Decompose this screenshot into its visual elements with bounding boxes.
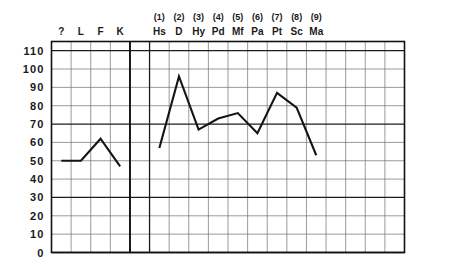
y-axis-tick-label: 80 xyxy=(30,100,44,112)
y-axis-tick-label: 100 xyxy=(23,63,45,75)
scale-number-label: (4) xyxy=(213,12,224,22)
y-axis-tick-label: 110 xyxy=(23,45,44,57)
scale-number-label: (6) xyxy=(252,12,263,22)
scale-abbreviation-labels: ?LFKHsDHyPdMfPaPtScMa xyxy=(58,26,323,37)
mmpi-profile-chart: 0102030405060708090100110 (1)(2)(3)(4)(5… xyxy=(0,0,460,275)
scale-number-label: (3) xyxy=(193,12,204,22)
scale-number-labels: (1)(2)(3)(4)(5)(6)(7)(8)(9) xyxy=(154,12,322,22)
scale-number-label: (8) xyxy=(291,12,302,22)
y-axis-tick-label: 90 xyxy=(30,81,44,93)
scale-number-label: (1) xyxy=(154,12,165,22)
scale-number-label: (2) xyxy=(173,12,184,22)
scale-abbreviation-label: F xyxy=(97,26,103,37)
y-axis-tick-labels: 0102030405060708090100110 xyxy=(23,45,45,259)
y-axis-tick-label: 10 xyxy=(30,228,44,240)
scale-abbreviation-label: Hy xyxy=(192,26,205,37)
scale-abbreviation-label: Sc xyxy=(291,26,304,37)
chart-canvas: 0102030405060708090100110 (1)(2)(3)(4)(5… xyxy=(0,0,460,275)
scale-number-label: (5) xyxy=(232,12,243,22)
y-axis-tick-label: 20 xyxy=(30,210,44,222)
clinical-scales-profile-line xyxy=(159,76,316,155)
scale-abbreviation-label: D xyxy=(175,26,182,37)
y-axis-tick-label: 60 xyxy=(30,136,44,148)
scale-abbreviation-label: K xyxy=(117,26,125,37)
scale-abbreviation-label: Hs xyxy=(153,26,166,37)
y-axis-tick-label: 30 xyxy=(30,191,44,203)
scale-abbreviation-label: ? xyxy=(58,26,64,37)
scale-abbreviation-label: Mf xyxy=(232,26,244,37)
scale-abbreviation-label: Pt xyxy=(272,26,283,37)
grid-minor-lines xyxy=(52,42,405,253)
scale-abbreviation-label: Pa xyxy=(251,26,264,37)
scale-abbreviation-label: L xyxy=(78,26,84,37)
scale-number-label: (9) xyxy=(311,12,322,22)
y-axis-tick-label: 70 xyxy=(30,118,44,130)
y-axis-tick-label: 40 xyxy=(30,173,44,185)
scale-number-label: (7) xyxy=(272,12,283,22)
scale-abbreviation-label: Pd xyxy=(212,26,225,37)
scale-abbreviation-label: Ma xyxy=(309,26,323,37)
y-axis-tick-label: 50 xyxy=(30,155,44,167)
y-axis-tick-label: 0 xyxy=(37,247,44,259)
